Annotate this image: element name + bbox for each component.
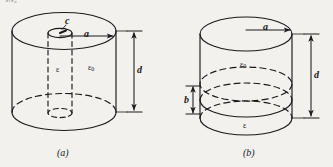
top-cropped-note: ε/ε₀ — [6, 0, 17, 4]
panel-a-inner-radius-label: c — [65, 16, 69, 26]
panel-b-slab-bottom-front-arc — [200, 100, 292, 117]
panel-b-caption: (b) — [243, 148, 255, 158]
panel-a-caption: (a) — [57, 148, 69, 158]
panel-a-outer-radius-label: a — [84, 29, 89, 39]
panel-b-upper-medium-subscript: 0 — [243, 63, 246, 69]
figure-canvas: ε/ε₀ c a d ε ε0 (a) a d b ε0 ε (b) — [0, 0, 333, 167]
panel-a-inner-radius-tick — [60, 31, 66, 34]
panel-b-upper-medium-label: ε0 — [240, 61, 246, 69]
panel-b-bottom-back-arc — [200, 101, 292, 118]
panel-b-slab-thickness-label: b — [184, 95, 189, 105]
panel-b-lower-medium-label: ε — [243, 122, 246, 130]
diagram-svg — [0, 0, 333, 167]
panel-b-cylinder — [186, 17, 319, 135]
panel-b-radius-label: a — [263, 22, 268, 32]
panel-a-bottom-front-arc — [12, 112, 116, 131]
panel-b-slab-bottom-back-arc — [200, 83, 292, 100]
panel-a-cylinder — [12, 13, 142, 131]
panel-a-outer-medium-subscript: 0 — [91, 66, 94, 72]
panel-a-inner-bottom-ellipse — [48, 108, 72, 117]
panel-b-top-ellipse — [200, 17, 292, 51]
panel-a-inner-medium-label: ε — [56, 66, 59, 74]
panel-a-height-label: d — [137, 65, 142, 75]
panel-b-height-label: d — [314, 70, 319, 80]
panel-b-interface-upper-ellipse — [200, 67, 292, 101]
panel-a-outer-medium-label: ε0 — [88, 64, 94, 72]
